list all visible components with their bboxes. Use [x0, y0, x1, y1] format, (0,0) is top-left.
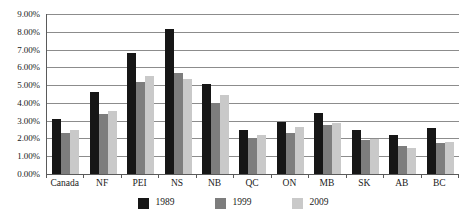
y-tick-label: 8.00%	[17, 27, 40, 36]
bar-group	[47, 14, 84, 174]
plot-wrapper: 0.00%1.00%2.00%3.00%4.00%5.00%6.00%7.00%…	[0, 0, 466, 190]
x-axis-label: SK	[346, 176, 383, 190]
y-tick-label: 7.00%	[17, 45, 40, 54]
x-axis-label: BC	[421, 176, 458, 190]
bar[interactable]	[407, 148, 416, 174]
x-axis-label: MB	[308, 176, 345, 190]
legend-swatch	[215, 198, 226, 209]
x-axis-label: NS	[158, 176, 195, 190]
bar[interactable]	[277, 122, 286, 174]
bar-chart: 0.00%1.00%2.00%3.00%4.00%5.00%6.00%7.00%…	[0, 0, 466, 224]
bar[interactable]	[61, 133, 70, 174]
y-tick-label: 9.00%	[17, 10, 40, 19]
bar[interactable]	[90, 92, 99, 174]
bar[interactable]	[52, 119, 61, 174]
bar-groups	[47, 14, 459, 174]
y-tick-label: 2.00%	[17, 134, 40, 143]
legend-item[interactable]: 1989	[138, 198, 175, 209]
x-tick	[458, 174, 459, 178]
legend-item[interactable]: 1999	[215, 198, 252, 209]
x-axis-label: ON	[271, 176, 308, 190]
bar[interactable]	[352, 130, 361, 174]
legend-swatch	[138, 198, 149, 209]
x-axis-label: NB	[196, 176, 233, 190]
bar[interactable]	[127, 53, 136, 174]
legend-label: 1989	[156, 198, 175, 208]
x-axis-labels: CanadaNFPEINSNBQCONMBSKABBC	[46, 176, 458, 190]
y-tick-label: 6.00%	[17, 63, 40, 72]
bar[interactable]	[389, 135, 398, 174]
bar-group	[309, 14, 346, 174]
bar[interactable]	[70, 130, 79, 174]
bar[interactable]	[248, 138, 257, 174]
bar-group	[422, 14, 459, 174]
bar-group	[384, 14, 421, 174]
bar[interactable]	[370, 139, 379, 174]
y-tick-label: 4.00%	[17, 98, 40, 107]
y-tick-label: 1.00%	[17, 152, 40, 161]
legend-label: 2009	[310, 198, 329, 208]
bar[interactable]	[295, 127, 304, 174]
bar[interactable]	[445, 142, 454, 174]
bar-group	[122, 14, 159, 174]
bar[interactable]	[220, 95, 229, 174]
bar-group	[272, 14, 309, 174]
chart-legend: 198919992009	[0, 194, 466, 212]
bar[interactable]	[99, 114, 108, 174]
bar-group	[234, 14, 271, 174]
y-tick-label: 3.00%	[17, 116, 40, 125]
bar[interactable]	[257, 135, 266, 174]
legend-swatch	[292, 198, 303, 209]
y-tick-label: 5.00%	[17, 81, 40, 90]
y-axis: 0.00%1.00%2.00%3.00%4.00%5.00%6.00%7.00%…	[0, 0, 44, 190]
bar[interactable]	[108, 111, 117, 174]
bar[interactable]	[286, 133, 295, 174]
bar[interactable]	[239, 130, 248, 174]
bar[interactable]	[436, 143, 445, 174]
bar[interactable]	[183, 79, 192, 174]
bar[interactable]	[314, 113, 323, 174]
bar[interactable]	[136, 82, 145, 174]
bar[interactable]	[165, 29, 174, 174]
bar[interactable]	[145, 76, 154, 174]
bar[interactable]	[427, 128, 436, 174]
legend-label: 1999	[233, 198, 252, 208]
bar[interactable]	[202, 84, 211, 174]
bar[interactable]	[323, 125, 332, 174]
bar[interactable]	[361, 140, 370, 174]
bar[interactable]	[332, 123, 341, 174]
bar[interactable]	[174, 73, 183, 174]
x-axis-label: AB	[383, 176, 420, 190]
x-axis-label: QC	[233, 176, 270, 190]
bar-group	[159, 14, 196, 174]
x-axis-label: Canada	[46, 176, 83, 190]
bar[interactable]	[398, 146, 407, 174]
y-tick-label: 0.00%	[17, 170, 40, 179]
bar-group	[197, 14, 234, 174]
x-axis-label: PEI	[121, 176, 158, 190]
x-axis-label: NF	[83, 176, 120, 190]
legend-item[interactable]: 2009	[292, 198, 329, 209]
bar-group	[347, 14, 384, 174]
plot-area	[46, 14, 459, 175]
bar[interactable]	[211, 103, 220, 174]
bar-group	[84, 14, 121, 174]
